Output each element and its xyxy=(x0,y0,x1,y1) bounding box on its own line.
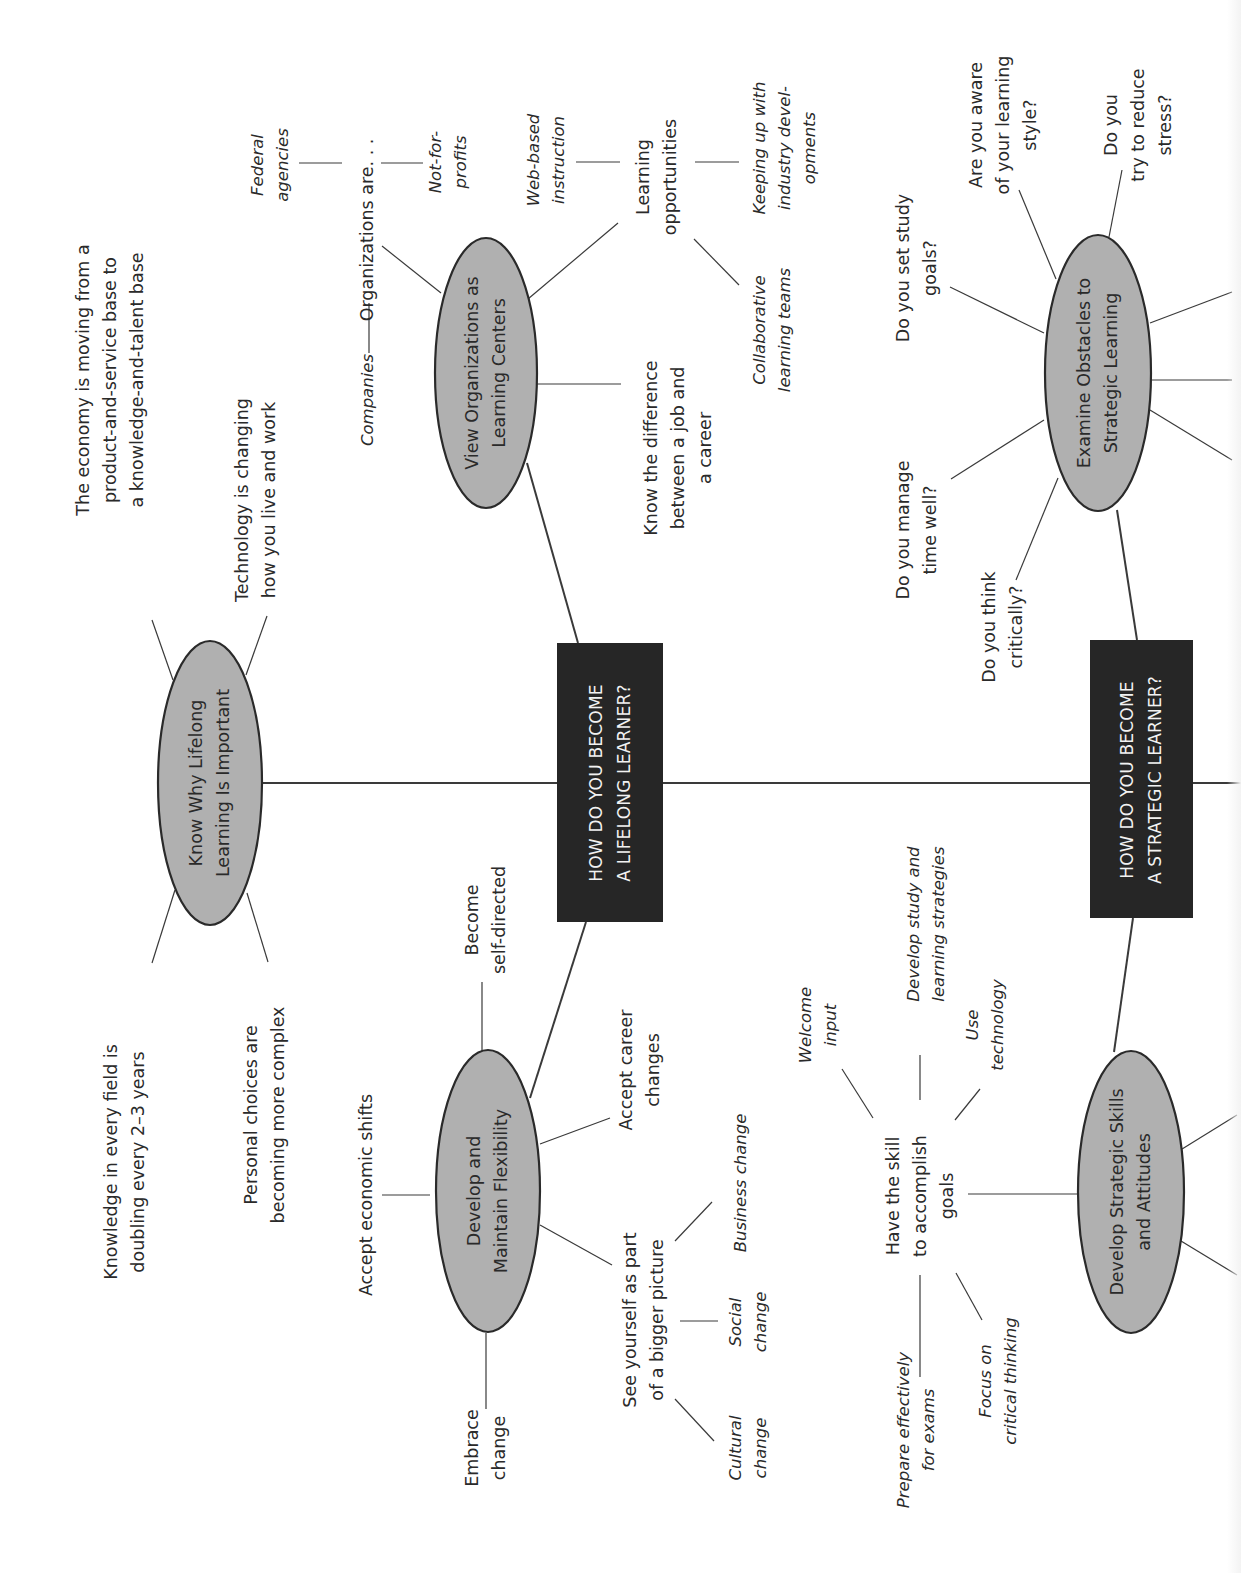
node-flexibility-label: Develop and Maintain Flexibility xyxy=(461,1109,515,1273)
leaf-manage-time: Do you manage time well? xyxy=(890,461,944,600)
leaf-reduce-stress: Do you try to reduce stress? xyxy=(1098,68,1179,181)
leaf-federal-agencies: Federal agencies xyxy=(245,128,295,202)
leaf-collaborative-teams: Collaborative learning teams xyxy=(747,268,797,392)
hub-lifelong-label: HOW DO YOU BECOME A LIFELONG LEARNER? xyxy=(582,684,638,881)
branch-learning-opportunities: Learning opportunities xyxy=(630,119,684,235)
leaf-social-change: Social change xyxy=(723,1292,773,1353)
leaf-embrace-change: Embrace change xyxy=(459,1409,513,1487)
leaf-cultural-change: Cultural change xyxy=(723,1416,773,1481)
leaf-economic-shifts: Accept economic shifts xyxy=(353,1094,380,1296)
leaf-business-change: Business change xyxy=(728,1114,753,1253)
leaf-learning-style: Are you aware of your learning style? xyxy=(963,56,1044,195)
leaf-career-changes: Accept career changes xyxy=(613,1009,667,1130)
leaf-web-based-instruction: Web-based instruction xyxy=(521,114,571,207)
node-obstacles-label: Examine Obstacles to Strategic Learning xyxy=(1071,278,1125,469)
leaf-think-critically: Do you think critically? xyxy=(976,571,1030,683)
leaf-study-goals: Do you set study goals? xyxy=(890,194,944,342)
leaf-economy: The economy is moving from a product-and… xyxy=(70,244,151,515)
branch-bigger-picture: See yourself as part of a bigger picture xyxy=(617,1232,671,1407)
leaf-knowledge-doubling: Knowledge in every field is doubling eve… xyxy=(98,1044,152,1280)
hub-strategic-label: HOW DO YOU BECOME A STRATEGIC LEARNER? xyxy=(1113,676,1169,884)
leaf-keeping-up: Keeping up with industry devel- opments xyxy=(747,82,822,215)
node-view-orgs-label: View Organizations as Learning Centers xyxy=(459,276,513,470)
node-know-why-label: Know Why Lifelong Learning Is Important xyxy=(183,689,237,877)
leaf-companies: Companies xyxy=(355,354,380,446)
mind-map-canvas: HOW DO YOU BECOME A LIFELONG LEARNER? HO… xyxy=(0,0,1241,1573)
leaf-welcome-input: Welcome input xyxy=(793,987,843,1063)
page-edge-shadow xyxy=(1227,0,1241,1573)
leaf-study-strategies: Develop study and learning strategies xyxy=(901,846,951,1001)
leaf-technology: Technology is changing how you live and … xyxy=(229,398,283,602)
leaf-use-technology: Use technology xyxy=(960,979,1010,1071)
leaf-personal-choices: Personal choices are becoming more compl… xyxy=(238,1007,292,1224)
node-strategic-skills-label: Develop Strategic Skills and Attitudes xyxy=(1104,1088,1158,1295)
leaf-self-directed: Become self-directed xyxy=(459,866,513,974)
branch-have-skill: Have the skill to accomplish goals xyxy=(880,1135,961,1257)
leaf-prepare-exams: Prepare effectively for exams xyxy=(891,1352,941,1508)
leaf-critical-thinking: Focus on critical thinking xyxy=(973,1317,1023,1445)
branch-organizations: Organizations are. . . xyxy=(354,139,381,322)
leaf-not-for-profits: Not-for- profits xyxy=(423,131,473,194)
leaf-job-vs-career: Know the difference between a job and a … xyxy=(638,360,719,535)
